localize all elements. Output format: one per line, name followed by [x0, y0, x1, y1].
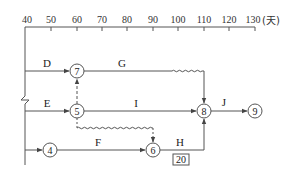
duration-box-value: 20 [176, 154, 186, 165]
activity-e: E [25, 97, 69, 111]
activity-j: J [211, 96, 247, 111]
node-8: 8 [197, 104, 211, 118]
node-label-6: 6 [151, 145, 156, 156]
activity-f: F [57, 136, 145, 150]
tick-label-80: 80 [122, 14, 132, 25]
dummy-5-6 [77, 118, 153, 142]
node-7: 7 [70, 64, 84, 78]
activity-label-e: E [44, 97, 51, 109]
tick-label-40: 40 [22, 14, 32, 25]
node-label-7: 7 [75, 66, 80, 77]
activity-label-f: F [95, 136, 101, 148]
activity-label-j: J [222, 96, 227, 108]
activity-g: G [84, 57, 204, 103]
tick-label-100: 100 [171, 14, 186, 25]
node-label-5: 5 [75, 106, 80, 117]
tick-label-90: 90 [148, 14, 158, 25]
unit-label: (天) [262, 15, 280, 26]
activity-label-g: G [118, 57, 126, 69]
tick-label-120: 120 [222, 14, 237, 25]
node-9: 9 [248, 104, 262, 118]
node-label-8: 8 [202, 106, 207, 117]
free-float-wavy-g [172, 70, 204, 72]
tick-label-60: 60 [72, 14, 82, 25]
activity-h: H 20 [160, 119, 204, 165]
activity-label-h: H [176, 136, 184, 148]
activity-d: D [25, 57, 69, 71]
time-scaled-network-diagram: 40 50 60 70 80 90 100 110 120 130 (天) D … [0, 0, 291, 178]
tick-label-110: 110 [197, 14, 212, 25]
time-axis: 40 50 60 70 80 90 100 110 120 130 (天) [22, 14, 280, 31]
activity-label-i: I [134, 97, 138, 109]
tick-label-50: 50 [46, 14, 56, 25]
activity-i: I [84, 97, 196, 111]
node-label-4: 4 [48, 145, 53, 156]
node-label-9: 9 [253, 106, 258, 117]
node-6: 6 [146, 143, 160, 157]
node-4: 4 [43, 143, 57, 157]
free-float-wavy-dummy [77, 127, 153, 129]
break-mark-icon [21, 96, 29, 104]
tick-label-70: 70 [97, 14, 107, 25]
activity-label-d: D [43, 57, 51, 69]
start-line [21, 27, 29, 165]
node-5: 5 [70, 104, 84, 118]
tick-label-130: 130 [246, 14, 261, 25]
